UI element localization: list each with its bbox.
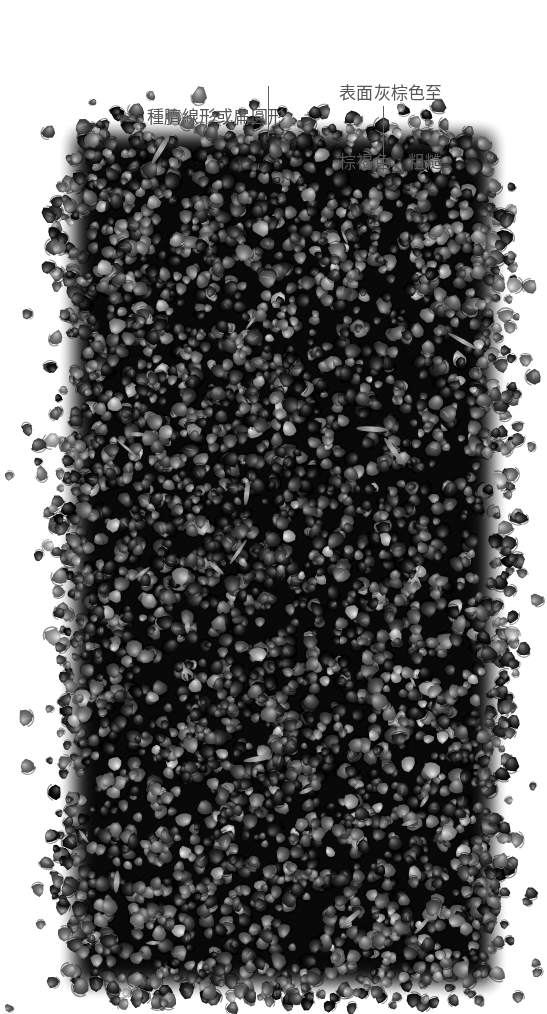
annotation-hilum: 種臍線形或扁圓形	[147, 60, 285, 175]
annotation-surface: 表面灰棕色至 棕褐色，粗糙	[339, 36, 443, 220]
annotation-surface-line-1: 表面灰棕色至	[339, 82, 443, 105]
figure-container: 種臍線形或扁圓形 表面灰棕色至 棕褐色，粗糙	[0, 0, 547, 1014]
annotation-hilum-line-1: 種臍線形或扁圓形	[147, 106, 285, 129]
annotation-surface-line-2: 棕褐色，粗糙	[339, 151, 443, 174]
